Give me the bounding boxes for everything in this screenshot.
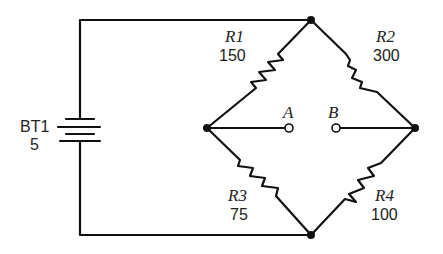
- terminal-a: [285, 124, 293, 132]
- resistor-r3: [207, 128, 311, 235]
- r4-value: 100: [371, 206, 398, 223]
- r2-name: R2: [375, 27, 395, 46]
- r3-name: R3: [227, 186, 247, 205]
- r4-name: R4: [374, 186, 394, 205]
- resistor-r1: [207, 20, 311, 128]
- r1-name: R1: [224, 27, 244, 46]
- terminal-b-label: B: [328, 103, 339, 122]
- node-right: [411, 124, 419, 132]
- resistor-r2: [311, 20, 415, 128]
- node-top: [307, 16, 315, 24]
- r3-value: 75: [230, 206, 248, 223]
- battery-name: BT1: [20, 118, 49, 135]
- resistor-r4: [311, 128, 415, 235]
- battery-value: 5: [30, 136, 39, 153]
- terminal-a-label: A: [282, 103, 294, 122]
- battery-symbol: [58, 119, 100, 141]
- node-left: [203, 124, 211, 132]
- circuit-diagram: BT1 5 R1 150 R2 300 R3 75 R4 100 A B: [0, 0, 443, 254]
- r2-value: 300: [373, 47, 400, 64]
- terminal-b: [332, 124, 340, 132]
- wire-top: [80, 20, 311, 119]
- node-bottom: [307, 231, 315, 239]
- r1-value: 150: [219, 47, 246, 64]
